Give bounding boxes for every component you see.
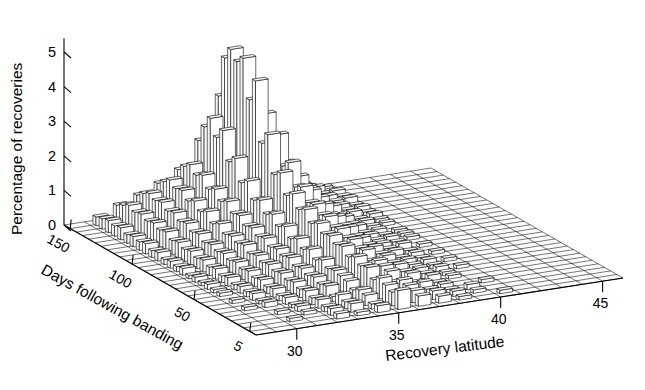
bar <box>415 292 431 306</box>
z-axis-title: Percentage of recoveries <box>8 62 25 235</box>
bar <box>436 293 452 304</box>
bar-side-face <box>118 226 121 240</box>
bar-side-face <box>382 283 385 302</box>
bar-side-face <box>105 219 108 233</box>
bar <box>334 310 350 319</box>
x-tick-label: 40 <box>491 311 507 327</box>
z-tick-label: 4 <box>48 79 56 95</box>
z-tick-label: 5 <box>48 44 56 60</box>
x-tick-label: 45 <box>593 295 609 311</box>
bar-side-face <box>245 269 248 283</box>
bar-side-face <box>290 280 293 294</box>
bar-side-face <box>395 289 398 310</box>
bar-side-face <box>188 249 191 265</box>
bar <box>374 302 390 313</box>
bar-side-face <box>175 241 178 258</box>
three-d-bar-chart: 012345 30354045 550100150 Percentage of … <box>0 0 645 390</box>
chart-figure: 012345 30354045 550100150 Percentage of … <box>0 0 645 390</box>
x-tick-label: 35 <box>389 327 405 343</box>
bar-front-face <box>398 289 411 310</box>
z-tick-label: 2 <box>48 148 56 164</box>
z-tick-label: 1 <box>48 182 56 198</box>
x-tick-label: 30 <box>287 343 303 359</box>
z-tick-label: 3 <box>48 113 56 129</box>
bar <box>262 299 278 308</box>
bar-side-face <box>200 258 203 272</box>
bar <box>395 287 411 310</box>
